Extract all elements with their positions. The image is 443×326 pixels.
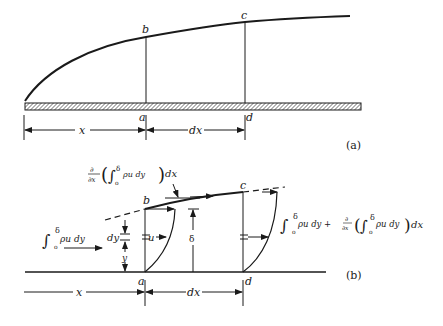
svg-text:ρu dy +: ρu dy + bbox=[297, 219, 331, 229]
top-flux-arrow bbox=[173, 184, 178, 197]
svg-text:o: o bbox=[369, 228, 373, 235]
svg-text:o: o bbox=[115, 179, 119, 186]
label-dy: dy bbox=[107, 232, 119, 243]
label-d: d bbox=[246, 111, 253, 124]
label-c-b: c bbox=[240, 179, 246, 192]
svg-text:∫: ∫ bbox=[360, 217, 368, 235]
dim-x-label: x bbox=[79, 124, 86, 137]
svg-text:dx: dx bbox=[411, 219, 423, 230]
caption-b: (b) bbox=[346, 269, 362, 282]
dim-dx-label: dx bbox=[189, 124, 203, 137]
label-a: a bbox=[139, 111, 146, 124]
boundary-edge-solid bbox=[145, 192, 243, 209]
figure-a: b c a d x dx (a) bbox=[24, 9, 361, 152]
label-d-b: d bbox=[245, 275, 252, 288]
label-a-b: a bbox=[138, 275, 145, 288]
svg-text:∫: ∫ bbox=[280, 216, 288, 235]
svg-text:ρu dy: ρu dy bbox=[59, 234, 86, 244]
flat-plate-hatched bbox=[25, 103, 361, 110]
svg-text:): ) bbox=[158, 164, 165, 185]
svg-text:δ: δ bbox=[116, 165, 120, 173]
dim-x-label-b: x bbox=[76, 286, 83, 299]
label-y: y bbox=[121, 253, 128, 263]
svg-text:dx: dx bbox=[165, 168, 177, 179]
label-b: b bbox=[142, 23, 149, 36]
boundary-edge-dashed bbox=[105, 209, 145, 220]
velocity-profile-dc bbox=[243, 192, 277, 272]
figure-b: ∂ ∂x ( ∫ δ o ρu dy ) dx u bbox=[24, 164, 423, 306]
top-flux-expression: ∂ ∂x ( ∫ δ o ρu dy ) dx bbox=[88, 164, 177, 186]
svg-text:o: o bbox=[292, 228, 296, 235]
inflow-expression: ∫ δ o ρu dy bbox=[42, 226, 86, 250]
svg-text:(: ( bbox=[101, 164, 108, 185]
label-delta: δ bbox=[189, 234, 194, 244]
svg-text:o: o bbox=[54, 243, 58, 250]
label-b-b: b bbox=[143, 194, 150, 207]
boundary-layer-diagram: b c a d x dx (a) ∂ ∂x ( ∫ δ o ρu dy ) dx bbox=[0, 0, 443, 326]
caption-a: (a) bbox=[346, 139, 361, 152]
svg-text:): ) bbox=[404, 215, 411, 235]
svg-text:∂: ∂ bbox=[90, 166, 94, 174]
svg-text:∂x: ∂x bbox=[88, 176, 96, 184]
outflow-expression: ∫ δ o ρu dy + ∂ ∂x ( ∫ δ o ρu dy ) dx bbox=[280, 212, 423, 235]
svg-text:∂x: ∂x bbox=[342, 224, 349, 231]
svg-text:δ: δ bbox=[370, 213, 375, 222]
svg-text:∂: ∂ bbox=[345, 215, 348, 222]
svg-text:ρu dy: ρu dy bbox=[375, 219, 400, 229]
label-c: c bbox=[241, 9, 247, 22]
svg-text:∫: ∫ bbox=[42, 231, 50, 250]
dim-dx-label-b: dx bbox=[187, 286, 201, 299]
boundary-edge-dashed-right bbox=[243, 187, 285, 192]
svg-text:ρu dy: ρu dy bbox=[122, 170, 146, 179]
label-u: u bbox=[148, 232, 154, 243]
boundary-layer-edge-curve bbox=[25, 16, 350, 101]
